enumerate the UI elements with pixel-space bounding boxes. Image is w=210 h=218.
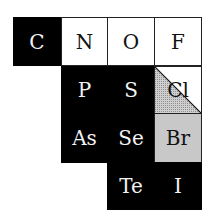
symbol-cl: Cl (167, 78, 189, 102)
cell-se: Se (107, 113, 155, 163)
symbol-o: O (123, 30, 139, 54)
symbol-p: P (78, 78, 91, 102)
cell-o: O (107, 17, 155, 66)
symbol-c: C (29, 30, 44, 54)
cell-i: I (154, 162, 202, 210)
symbol-n: N (76, 30, 94, 54)
cell-n: N (61, 17, 108, 66)
symbol-br: Br (166, 126, 190, 150)
cell-te: Te (107, 162, 155, 210)
symbol-s: S (124, 78, 138, 102)
symbol-se: Se (118, 126, 144, 150)
cell-p: P (61, 66, 108, 114)
cell-as: As (61, 113, 108, 163)
symbol-te: Te (119, 174, 143, 198)
symbol-f: F (171, 30, 185, 54)
cell-f: F (154, 17, 202, 66)
symbol-i: I (174, 174, 182, 198)
cell-s: S (107, 66, 155, 114)
cell-cl: Cl (154, 66, 202, 114)
cell-br: Br (154, 113, 202, 163)
cell-c: C (13, 17, 61, 66)
symbol-as: As (72, 126, 97, 150)
